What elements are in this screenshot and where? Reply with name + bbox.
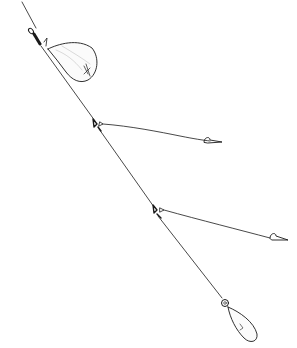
lower-dropper: [153, 205, 288, 240]
main-line: [22, 2, 222, 298]
feeder-bag-icon: [48, 43, 97, 82]
sinker-icon: [222, 300, 258, 342]
upper-dropper: [93, 119, 222, 143]
hook-icon: [270, 234, 288, 240]
fishing-rig-illustration: [0, 0, 297, 348]
swivel-icon: [28, 27, 47, 46]
